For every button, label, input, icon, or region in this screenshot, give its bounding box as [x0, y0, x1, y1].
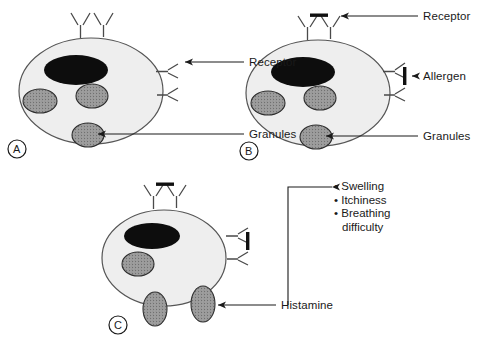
allergen-icon — [156, 183, 174, 186]
callout-label-granules-a: Granules — [249, 128, 296, 140]
receptor-icon — [71, 13, 113, 38]
callout-label-receptor-b: Receptor — [423, 10, 470, 22]
receptor-icon — [144, 185, 186, 209]
granule — [122, 252, 154, 276]
callout-label-allergen-b: Allergen — [423, 70, 466, 82]
nucleus — [44, 55, 108, 85]
symptom-label: Breathing — [341, 207, 390, 219]
symptom-label: Itchiness — [341, 194, 386, 206]
allergen-icon — [310, 14, 328, 17]
panel-c — [102, 183, 276, 335]
diagram-svg — [0, 0, 490, 347]
symptom-label: difficulty — [342, 221, 383, 233]
symptom-label: Swelling — [341, 180, 384, 192]
symptom-item-continuation: difficulty — [334, 221, 390, 235]
symptom-item: • Itchiness — [334, 194, 390, 208]
callout-label-granules-b: Granules — [423, 130, 470, 142]
callout-label-receptor-a: Receptor — [249, 56, 296, 68]
panel-a — [8, 13, 244, 158]
symptom-item: • Swelling — [334, 180, 390, 194]
allergen-icon — [246, 232, 249, 250]
callout-label-histamine-c: Histamine — [281, 299, 333, 311]
panel-letter-b: B — [245, 145, 252, 157]
receptor-icon — [226, 228, 248, 265]
receptor-icon — [298, 16, 340, 40]
figure-canvas: Receptor Granules Receptor Allergen Gran… — [0, 0, 490, 347]
symptoms-connector — [288, 187, 332, 305]
symptoms-list: • Swelling • Itchiness • Breathing diffi… — [334, 180, 390, 234]
symptom-item: • Breathing — [334, 207, 390, 221]
nucleus — [124, 223, 180, 249]
panel-letter-c: C — [114, 319, 122, 331]
panel-letter-a: A — [13, 143, 20, 155]
allergen-icon — [403, 67, 406, 85]
